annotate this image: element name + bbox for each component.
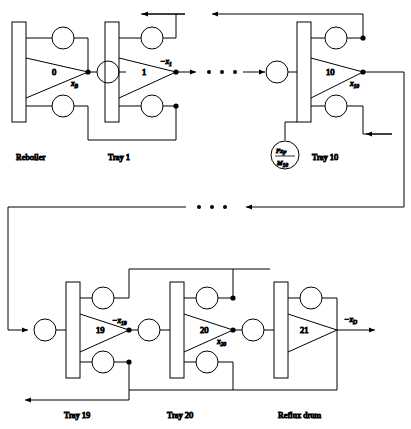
tray20-summing-bar (170, 282, 184, 378)
caption-reboiler: Reboiler (16, 152, 45, 162)
label-x1: −x1 (160, 57, 172, 67)
amp-number-tray10: 10 (326, 67, 335, 77)
ellipsis-dot (210, 205, 214, 209)
reboiler-bottom-feedback-wire (74, 106, 176, 140)
label-x10: x10 (349, 79, 359, 89)
reboiler-inverter-potentiometer (97, 61, 119, 83)
caption-refluxdrum: Reflux drum (278, 410, 322, 420)
tray19-summing-bar (66, 282, 80, 378)
caption-tray1: Tray 1 (108, 152, 130, 162)
tray10-bottom-potentiometer (325, 95, 347, 117)
tray10-feed-lead (285, 122, 297, 140)
amp-number-tray19: 19 (96, 325, 105, 335)
ellipsis-dot (207, 70, 211, 74)
tray19-inverter-potentiometer (138, 319, 160, 341)
stage-reboiler: xB 0 Reboiler (12, 22, 176, 162)
ellipsis-middle (197, 205, 227, 209)
distillation-signal-flow-diagram: xB 0 Reboiler −x1 1 Tray 1 (0, 0, 411, 429)
ellipsis-dot (233, 70, 237, 74)
tray10-summing-bar (297, 22, 311, 122)
tray10-top-potentiometer (325, 27, 347, 49)
tray10-bottom-lead-out (347, 106, 392, 134)
stage-tray10: FxF M10 x10 10 Tray 10 (212, 14, 404, 207)
tray10-output-bus-wire (363, 72, 404, 207)
feed-numerator: FxF (275, 147, 287, 156)
tray10-input-potentiometer (266, 61, 288, 83)
tray20-inverter-potentiometer (242, 319, 264, 341)
tray1-top-lead-up (163, 14, 176, 38)
amp-number-refluxdrum: 21 (300, 325, 309, 335)
label-xB: xB (70, 79, 79, 89)
tray19-input-potentiometer (34, 319, 56, 341)
reboiler-amplifier-triangle (26, 58, 88, 98)
label-x19: −x19 (112, 316, 127, 326)
refluxdrum-amplifier-triangle (288, 314, 337, 352)
tray1-bottom-potentiometer (141, 95, 163, 117)
caption-tray20: Tray 20 (167, 410, 193, 420)
ellipsis-dot (223, 205, 227, 209)
diagram-canvas: xB 0 Reboiler −x1 1 Tray 1 (0, 0, 411, 429)
tray1-summing-bar (105, 22, 119, 122)
reboiler-top-potentiometer (52, 27, 74, 49)
stage-tray20: x20 20 Tray 20 (129, 269, 274, 420)
tray20-top-potentiometer (196, 287, 218, 309)
tray10-amplifier-triangle (311, 58, 363, 98)
amp-number-reboiler: 0 (52, 67, 56, 77)
stage-refluxdrum: −xD 21 Reflux drum (233, 282, 375, 420)
ellipsis-dot (197, 205, 201, 209)
tray19-top-feedback-wire (114, 269, 270, 298)
tray10-top-feedback-wire (212, 14, 363, 38)
caption-tray10: Tray 10 (312, 152, 338, 162)
tray1-top-potentiometer (141, 27, 163, 49)
tray19-bottom-potentiometer (92, 351, 114, 373)
reboiler-bottom-potentiometer (52, 95, 74, 117)
caption-tray19: Tray 19 (64, 410, 90, 420)
reboiler-top-lead-out (74, 38, 88, 72)
ellipsis-top (207, 70, 237, 74)
refluxdrum-feedback-wire (233, 298, 337, 390)
amp-number-tray20: 20 (200, 325, 209, 335)
tray20-bottom-potentiometer (196, 351, 218, 373)
refluxdrum-summing-bar (274, 282, 288, 378)
label-x20: x20 (216, 337, 226, 347)
ellipsis-dot (220, 70, 224, 74)
label-xD: −xD (344, 315, 357, 325)
tray19-top-potentiometer (92, 287, 114, 309)
refluxdrum-top-potentiometer (300, 287, 322, 309)
reboiler-summing-bar (12, 22, 26, 122)
tray19-bottom-feedback-wire (25, 362, 129, 400)
amp-number-tray1: 1 (142, 67, 146, 77)
